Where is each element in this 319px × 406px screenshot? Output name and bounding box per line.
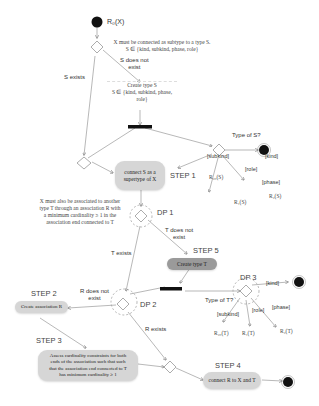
merge-diamond-icon bbox=[164, 361, 176, 373]
note-mid: X must also be associated to another typ… bbox=[30, 198, 130, 226]
result-phase-t: R₂(T) bbox=[280, 328, 293, 334]
note-top: X must be connected as subtype to a type… bbox=[102, 39, 222, 53]
guard-kind-s: [kind] bbox=[265, 153, 278, 159]
guard-s-does-not-exist: S does not exist bbox=[120, 57, 149, 70]
start-node-icon bbox=[92, 17, 103, 28]
step2-action: Create association R bbox=[15, 301, 68, 313]
step4-action: connect R to X and T bbox=[203, 372, 261, 389]
guard-t-does-not-exist: T does not exist bbox=[165, 227, 193, 240]
fork-bar-icon bbox=[128, 125, 152, 129]
result-phase-s: R₂(S) bbox=[269, 193, 281, 199]
guard-role-s: [role] bbox=[245, 166, 257, 172]
dp1-label: DP 1 bbox=[157, 208, 174, 217]
dp2-label: DP 2 bbox=[140, 300, 157, 309]
result-role-t: R₁(T) bbox=[242, 330, 255, 336]
decision-diamond-icon bbox=[117, 298, 129, 310]
end-node-icon bbox=[283, 377, 293, 387]
guard-r-exists: R exists bbox=[145, 326, 166, 333]
guard-role-t: [role] bbox=[252, 307, 264, 313]
step1-action: connect S as a supertype of X bbox=[115, 161, 165, 190]
guard-r-does-not-exist: R does not exist bbox=[80, 288, 109, 301]
decision-diamond-icon bbox=[240, 285, 252, 297]
fork-bar-icon bbox=[160, 287, 182, 291]
guard-kind-t: [kind] bbox=[266, 280, 279, 286]
start-label: R₀(X) bbox=[107, 18, 124, 26]
dp3-label: DP 3 bbox=[240, 273, 257, 282]
result-subkind-s: R₂₀(S) bbox=[209, 174, 223, 180]
end-node-icon bbox=[294, 277, 304, 287]
guard-subkind-s: [subkind] bbox=[207, 153, 229, 159]
step2-label: STEP 2 bbox=[31, 289, 57, 298]
step3-label: STEP 3 bbox=[36, 336, 62, 345]
type-of-t-label: Type of T? bbox=[205, 297, 233, 304]
step3-action: Assess cardinality constraints for both … bbox=[38, 350, 138, 381]
step1-label: STEP 1 bbox=[170, 171, 196, 180]
guard-s-exists: S exists bbox=[64, 74, 85, 81]
guard-subkind-t: [subkind] bbox=[217, 311, 239, 317]
create-type-s-action: Create type S S ∈ {kind, subkind, phase,… bbox=[107, 81, 177, 103]
step5-label: STEP 5 bbox=[193, 246, 219, 255]
guard-phase-t: [phase] bbox=[272, 304, 290, 310]
step4-label: STEP 4 bbox=[215, 361, 241, 370]
guard-t-exists: T exists bbox=[111, 250, 132, 257]
decision-diamond-icon bbox=[135, 210, 147, 222]
step5-action: Create type T bbox=[167, 258, 217, 270]
guard-phase-s: [phase] bbox=[262, 179, 280, 185]
result-role-s: R₁(S) bbox=[234, 199, 246, 205]
result-subkind-t: R₂₀(T) bbox=[214, 330, 229, 336]
type-of-s-label: Type of S? bbox=[232, 132, 261, 139]
merge-diamond-icon bbox=[77, 157, 91, 169]
